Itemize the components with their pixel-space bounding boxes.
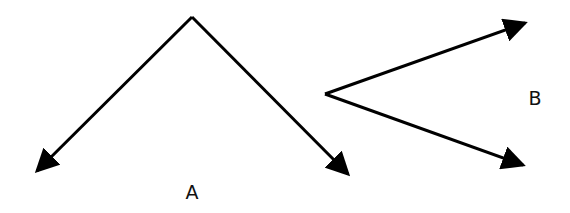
diagram-canvas: A B [0,0,570,213]
diagram-b-vectors [325,23,525,165]
diagram-a-vectors [37,17,348,174]
arrow-a-1-icon [37,17,192,171]
arrow-a-2-icon [192,17,348,174]
vector-diagram [0,0,570,213]
label-b: B [528,89,541,108]
label-a: A [186,183,199,202]
arrow-b-1-icon [325,23,525,94]
arrow-b-2-icon [325,94,523,165]
